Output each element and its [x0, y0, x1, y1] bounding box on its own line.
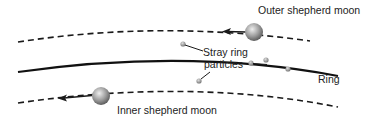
stray-particle — [263, 57, 268, 62]
inner-moon-arrow — [58, 95, 92, 102]
inner-moon — [92, 87, 110, 105]
outer-moon — [245, 23, 263, 41]
stray-particles-label-line1: Stray ring — [203, 47, 248, 58]
stray-particle — [196, 78, 201, 83]
inner-moon-label: Inner shepherd moon — [117, 105, 217, 116]
stray-particle — [180, 41, 185, 46]
outer-orbit-path — [18, 31, 310, 42]
stray-particle — [285, 66, 290, 71]
outer-moon-label: Outer shepherd moon — [258, 5, 360, 16]
stray-particle — [248, 60, 253, 65]
stray-particles-label-line2: particles — [204, 59, 243, 70]
ring-label: Ring — [318, 74, 340, 85]
